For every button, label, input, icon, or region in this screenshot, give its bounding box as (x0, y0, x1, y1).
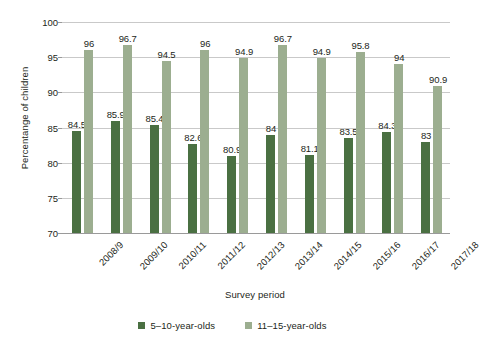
bar (344, 138, 353, 233)
legend-item: 5–10-year-olds (138, 320, 215, 331)
bar-group: 8496.7 (266, 22, 287, 233)
x-tick-label: 2011/12 (215, 239, 247, 271)
bar (317, 58, 326, 233)
y-tick-label-70: 70 (32, 228, 58, 239)
bar-group: 82.696 (188, 22, 209, 233)
plot-area: 84.59685.996.785.494.582.69680.994.98496… (62, 22, 450, 233)
x-tick-label: 2015/16 (370, 239, 403, 272)
bar (188, 144, 197, 233)
bar (162, 61, 171, 233)
legend-swatch-icon (245, 322, 252, 329)
bar-value-label: 96.7 (115, 33, 141, 44)
legend-swatch-icon (138, 322, 145, 329)
legend-item: 11–15-year-olds (245, 320, 326, 331)
bar (227, 156, 236, 233)
bar (421, 142, 430, 233)
x-tick-label: 2009/10 (137, 239, 170, 272)
y-tick-label-100: 100 (32, 17, 58, 28)
bar (150, 125, 159, 233)
bar (305, 155, 314, 233)
bar-group: 85.494.5 (150, 22, 171, 233)
bar (123, 45, 132, 233)
y-axis-ticks: 100959085807570 (28, 22, 58, 233)
bar-value-label: 94.9 (231, 46, 257, 57)
y-tick-label-75: 75 (32, 192, 58, 203)
bar-value-label: 96 (192, 38, 218, 49)
bar (278, 45, 287, 233)
x-tick-label: 2017/18 (448, 239, 480, 272)
y-tick-label-95: 95 (32, 52, 58, 63)
x-tick-label: 2016/17 (409, 239, 442, 272)
bar-group: 84.394 (382, 22, 403, 233)
y-tick-label-85: 85 (32, 122, 58, 133)
y-tick-label-90: 90 (32, 87, 58, 98)
legend-label: 11–15-year-olds (257, 320, 326, 331)
bar (394, 64, 403, 233)
bar-value-label: 95.8 (348, 40, 374, 51)
bar (111, 121, 120, 233)
x-tick-label: 2008/9 (97, 239, 126, 268)
bar (433, 86, 442, 233)
x-tick-label: 2014/15 (331, 239, 364, 272)
bar-value-label: 90.9 (425, 74, 451, 85)
bar-value-label: 94.9 (309, 46, 335, 57)
bar (356, 52, 365, 233)
y-tick-label-80: 80 (32, 157, 58, 168)
bar-group: 84.596 (72, 22, 93, 233)
legend-label: 5–10-year-olds (150, 320, 215, 331)
chart-legend: 5–10-year-olds11–15-year-olds (0, 320, 465, 331)
bar (239, 58, 248, 233)
bar (84, 50, 93, 233)
x-tick-label: 2013/14 (293, 239, 326, 272)
bar-value-label: 96 (76, 38, 102, 49)
x-tick-label: 2010/11 (176, 239, 208, 271)
bar (72, 131, 81, 233)
bar-group: 81.194.9 (305, 22, 326, 233)
bar-group: 85.996.7 (111, 22, 132, 233)
bar-value-label: 94.5 (154, 49, 180, 60)
bar-group: 83.595.8 (344, 22, 365, 233)
x-tick-label: 2012/13 (254, 239, 287, 272)
x-axis-title: Survey period (60, 289, 450, 300)
bar-group: 80.994.9 (227, 22, 248, 233)
x-axis-ticks: 2008/92009/102010/112011/122012/132013/1… (62, 233, 450, 289)
bar-group: 8390.9 (421, 22, 442, 233)
bar-value-label: 96.7 (270, 33, 296, 44)
bar-value-label: 94 (386, 52, 412, 63)
bar (200, 50, 209, 233)
bar (266, 135, 275, 233)
bar (382, 132, 391, 233)
